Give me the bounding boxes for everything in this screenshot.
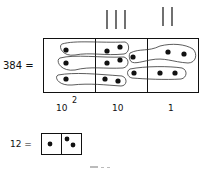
label-hundreds-exponent: 2: [72, 96, 77, 105]
tally-marks-tens: [107, 10, 125, 29]
tally-marks-ones: [163, 7, 172, 26]
grouping-loops: [57, 42, 196, 86]
dots-hundreds: [63, 47, 68, 81]
place-value-labels: 10 2 10 1: [56, 96, 174, 113]
label-tens: 10: [112, 103, 124, 113]
equation-label-12: 12 =: [10, 139, 32, 149]
equation-label-384: 384 =: [3, 60, 34, 71]
dots-tens: [102, 44, 122, 83]
cropped-caption: [90, 166, 110, 168]
place-value-diagram: 384 = 10 2 10 1: [0, 0, 200, 169]
small-place-value-box: [42, 134, 82, 155]
label-hundreds-base: 10: [56, 103, 68, 113]
label-ones: 1: [168, 103, 174, 113]
